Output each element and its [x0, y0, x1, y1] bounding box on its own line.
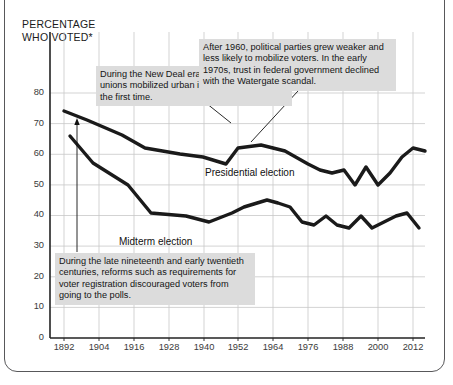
leader-reforms-arrowhead	[74, 118, 79, 125]
y-tick-label-10: 10	[22, 301, 44, 311]
x-tick-label-1988: 1988	[323, 342, 363, 352]
x-tick-label-1904: 1904	[79, 342, 119, 352]
x-tick-label-1928: 1928	[149, 342, 189, 352]
annotation-reforms: During the late nineteenth and early twe…	[55, 253, 255, 305]
y-tick-label-70: 70	[22, 118, 44, 128]
y-tick-label-50: 50	[22, 179, 44, 189]
y-tick-label-40: 40	[22, 209, 44, 219]
figure-page: PERCENTAGE WHO VOTED*	[0, 0, 453, 385]
series-label-midterm: Midterm election	[119, 236, 192, 247]
y-tick-label-0: 0	[22, 332, 44, 342]
y-tick-label-30: 30	[22, 240, 44, 250]
annotation-after-1960: After 1960, political parties grew weake…	[199, 39, 396, 91]
y-tick-label-20: 20	[22, 271, 44, 281]
y-tick-label-80: 80	[22, 87, 44, 97]
series-label-presidential: Presidential election	[205, 167, 295, 178]
x-tick-label-1916: 1916	[114, 342, 154, 352]
x-tick-label-1952: 1952	[218, 342, 258, 352]
x-tick-label-2012: 2012	[393, 342, 433, 352]
x-tick-label-2000: 2000	[358, 342, 398, 352]
series-line-midterm	[70, 136, 419, 228]
x-tick-label-1976: 1976	[288, 342, 328, 352]
y-tick-label-60: 60	[22, 148, 44, 158]
x-tick-label-1892: 1892	[44, 342, 84, 352]
x-tick-label-1964: 1964	[253, 342, 293, 352]
